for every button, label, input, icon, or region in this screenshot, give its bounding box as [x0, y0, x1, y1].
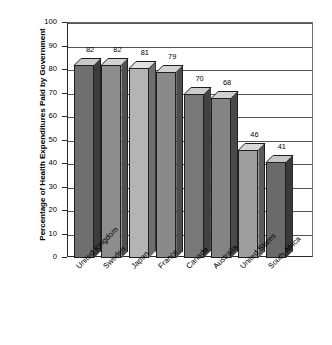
bar-front-face [156, 72, 176, 258]
bar-value-label: 68 [211, 79, 243, 86]
bar-value-label: 41 [266, 143, 298, 150]
bar[interactable] [129, 68, 149, 258]
bar-front-face [211, 98, 231, 258]
bar-chart: Percentage of Health Expenditures Paid b… [0, 0, 332, 345]
y-tick-label: 50 [33, 136, 57, 144]
bar[interactable] [184, 94, 204, 259]
bar[interactable] [211, 98, 231, 258]
bar-front-face [74, 65, 94, 258]
bar-side-face [231, 91, 238, 258]
y-tick-label: 90 [33, 42, 57, 50]
bar-front-face [129, 68, 149, 258]
bar-value-label: 79 [156, 53, 188, 60]
bar[interactable] [238, 150, 258, 258]
bar-side-face [149, 61, 156, 258]
y-tick-label: 70 [33, 89, 57, 97]
bar-front-face [238, 150, 258, 258]
y-tick-label: 20 [33, 206, 57, 214]
bar[interactable] [74, 65, 94, 258]
bar-side-face [94, 58, 101, 258]
y-tick-label: 40 [33, 159, 57, 167]
y-tick-label: 80 [33, 65, 57, 73]
y-tick-label: 10 [33, 230, 57, 238]
plot-area [67, 22, 313, 257]
bar-side-face [176, 65, 183, 258]
y-tick-label: 0 [33, 253, 57, 261]
y-tick-label: 60 [33, 112, 57, 120]
bar[interactable] [156, 72, 176, 258]
y-tick-label: 100 [33, 18, 57, 26]
bar-front-face [184, 94, 204, 259]
gridline [68, 23, 312, 24]
bar-side-face [204, 87, 211, 259]
bar-value-label: 46 [238, 131, 270, 138]
y-axis-title: Percentage of Health Expenditures Paid b… [38, 15, 47, 255]
bar-side-face [121, 58, 128, 258]
y-tick-label: 30 [33, 183, 57, 191]
y-tick-mark [62, 257, 67, 258]
